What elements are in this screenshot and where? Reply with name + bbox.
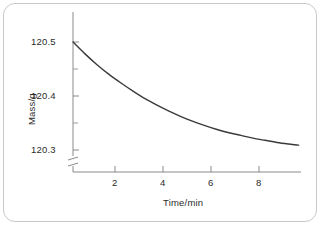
x-axis-title: Time/min <box>163 197 203 208</box>
y-axis-break-mark-lower <box>68 163 78 166</box>
x-tick-label-4: 4 <box>160 177 165 188</box>
x-tick-label-8: 8 <box>256 177 261 188</box>
mass-decay-curve <box>73 42 299 145</box>
x-tick-label-6: 6 <box>208 177 213 188</box>
y-axis-title: Mass/g <box>26 93 37 125</box>
chart-plot-area <box>0 0 322 227</box>
x-tick-label-2: 2 <box>112 177 117 188</box>
y-axis-break-mark-upper <box>68 157 78 160</box>
y-tick-label-120-3: 120.3 <box>31 144 56 155</box>
y-tick-label-120-5: 120.5 <box>31 36 56 47</box>
